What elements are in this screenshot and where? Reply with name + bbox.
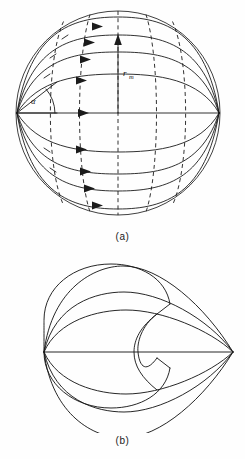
ray-up-3 (44, 266, 233, 352)
flow-arrow-up-1 (76, 77, 87, 85)
flow-arrow-group (76, 23, 103, 210)
figure-panel-b: (b) (0, 248, 245, 459)
angle-label-alpha: α (31, 96, 36, 106)
developed-outer-boundary (44, 264, 170, 408)
flow-arrow-down-1 (76, 146, 87, 154)
notch-edge-top (157, 304, 170, 314)
radius-label-subscript-m: m (129, 73, 134, 80)
figure-root: r m α (a) (0, 0, 245, 459)
flow-arrow-up-3 (84, 39, 95, 47)
meridian-tick-3 (44, 74, 50, 78)
meridian-tick-5 (50, 168, 56, 172)
ray-up-1 (44, 310, 233, 352)
panel-a-drawing: r m α (0, 0, 245, 228)
panel-b-caption: (b) (0, 434, 245, 448)
meridian-tick-1 (62, 35, 68, 39)
radius-arrowhead (114, 34, 122, 45)
notch-edge-bottom (157, 358, 170, 368)
meridian-tick-2 (50, 54, 56, 58)
panel-b-drawing (0, 248, 245, 433)
ray-group (44, 266, 233, 433)
radius-label-r: r (123, 68, 127, 78)
flow-arrow-down-3 (84, 185, 95, 193)
developed-outline-group (44, 264, 170, 408)
meridian-tick-4 (44, 148, 50, 152)
flow-arrow-up-4 (92, 23, 103, 31)
ray-down-1 (44, 352, 233, 394)
flow-arrow-up-2 (80, 56, 91, 64)
streamline-down-1 (17, 113, 219, 152)
panel-a-caption: (a) (0, 230, 245, 244)
flow-arrow-equator (78, 109, 89, 117)
radius-indicator: r m (114, 34, 134, 113)
flow-arrow-down-2 (80, 168, 91, 176)
figure-panel-a: r m α (a) (0, 0, 245, 248)
ray-down-3 (44, 352, 233, 433)
